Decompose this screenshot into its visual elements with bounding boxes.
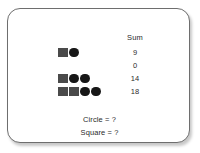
circle-shape bbox=[69, 74, 79, 84]
circle-shape bbox=[69, 48, 79, 58]
square-shape bbox=[58, 74, 68, 84]
square-shape bbox=[69, 87, 79, 97]
square-shape bbox=[58, 87, 68, 97]
shape-group bbox=[58, 46, 79, 59]
puzzle-rows: 9 0 14 18 bbox=[8, 46, 191, 98]
circle-shape bbox=[80, 87, 90, 97]
puzzle-card: Sum 9 0 14 bbox=[7, 8, 190, 143]
square-shape bbox=[58, 48, 68, 58]
table-row: 18 bbox=[8, 85, 191, 98]
questions-block: Circle = ? Square = ? bbox=[8, 113, 191, 139]
row-sum-value: 18 bbox=[112, 85, 158, 98]
shape-group bbox=[58, 85, 101, 98]
table-row: 14 bbox=[8, 72, 191, 85]
row-sum-value: 0 bbox=[112, 59, 158, 72]
circle-shape bbox=[91, 87, 101, 97]
sum-column-header: Sum bbox=[112, 33, 158, 42]
table-row: 9 bbox=[8, 46, 191, 59]
circle-question: Circle = ? bbox=[8, 113, 191, 126]
table-row: 0 bbox=[8, 59, 191, 72]
square-question: Square = ? bbox=[8, 126, 191, 139]
circle-shape bbox=[80, 74, 90, 84]
row-sum-value: 9 bbox=[112, 46, 158, 59]
row-sum-value: 14 bbox=[112, 72, 158, 85]
shape-group bbox=[58, 72, 90, 85]
